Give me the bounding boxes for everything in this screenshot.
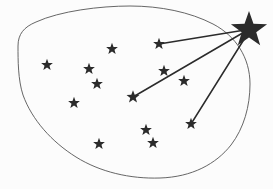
diagram-canvas bbox=[0, 0, 273, 189]
diagram-svg bbox=[0, 0, 273, 189]
